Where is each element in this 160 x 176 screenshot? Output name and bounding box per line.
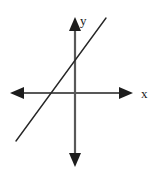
y-axis-label: y — [80, 13, 87, 28]
plotted-line — [16, 18, 106, 141]
arrow-down-icon — [69, 153, 81, 167]
arrow-left-icon — [10, 87, 24, 99]
graph-canvas: y x — [0, 0, 160, 176]
x-axis-label: x — [141, 86, 148, 101]
coordinate-plane-figure: y x — [0, 0, 160, 176]
arrow-right-icon — [119, 87, 133, 99]
